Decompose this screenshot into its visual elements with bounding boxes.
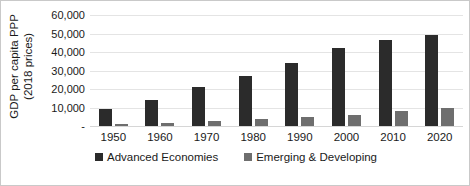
bar-group bbox=[183, 15, 230, 126]
plot-area bbox=[90, 15, 463, 126]
bar bbox=[208, 121, 221, 126]
y-axis-tick-label: 60,000 bbox=[51, 9, 85, 21]
x-axis-tick-label: 1980 bbox=[230, 128, 277, 148]
bar-group bbox=[323, 15, 370, 126]
bar bbox=[99, 109, 112, 126]
bar bbox=[332, 48, 345, 126]
bar-group bbox=[416, 15, 463, 126]
x-axis-tick-label: 1990 bbox=[277, 128, 324, 148]
legend-swatch-icon bbox=[95, 153, 103, 161]
bar-groups bbox=[90, 15, 463, 126]
x-axis-tick-label: 2000 bbox=[323, 128, 370, 148]
bar bbox=[285, 63, 298, 126]
bar bbox=[115, 124, 128, 126]
legend-swatch-icon bbox=[244, 153, 252, 161]
y-axis-tick-label: 20,000 bbox=[51, 83, 85, 95]
bar bbox=[441, 108, 454, 127]
x-axis-tick-label: 1970 bbox=[183, 128, 230, 148]
bar-group bbox=[277, 15, 324, 126]
legend-entry[interactable]: Emerging & Developing bbox=[244, 151, 377, 163]
x-axis-tick-label: 2010 bbox=[370, 128, 417, 148]
legend: Advanced EconomiesEmerging & Developing bbox=[1, 151, 470, 163]
y-axis-tick-label: 50,000 bbox=[51, 28, 85, 40]
bar bbox=[192, 87, 205, 126]
x-axis-tick-label: 1950 bbox=[90, 128, 137, 148]
bar bbox=[161, 123, 174, 126]
bar bbox=[145, 100, 158, 126]
bar-chart: GDP per capita PPP (2018 prices) -10,000… bbox=[0, 0, 470, 186]
bar bbox=[239, 76, 252, 126]
y-axis-title-line-2: (2018 prices) bbox=[21, 14, 35, 119]
y-axis-tick-label: 40,000 bbox=[51, 46, 85, 58]
bar bbox=[301, 117, 314, 126]
bar-group bbox=[370, 15, 417, 126]
legend-label: Emerging & Developing bbox=[256, 151, 377, 163]
bar bbox=[425, 35, 438, 126]
bar-group bbox=[90, 15, 137, 126]
bar bbox=[348, 115, 361, 126]
y-axis-title-line-1: GDP per capita PPP bbox=[7, 14, 21, 119]
bar-group bbox=[230, 15, 277, 126]
y-axis-tick-label: 30,000 bbox=[51, 65, 85, 77]
x-axis-tick-label: 2020 bbox=[416, 128, 463, 148]
axis-baseline bbox=[90, 126, 463, 127]
x-axis-tick-labels: 19501960197019801990200020102020 bbox=[90, 128, 463, 148]
bar-group bbox=[137, 15, 184, 126]
y-axis-tick-label: 10,000 bbox=[51, 102, 85, 114]
bar bbox=[379, 40, 392, 126]
y-axis-tick-label: - bbox=[81, 120, 85, 132]
legend-label: Advanced Economies bbox=[107, 151, 218, 163]
y-axis-title: GDP per capita PPP (2018 prices) bbox=[1, 1, 41, 131]
y-axis-tick-labels: -10,00020,00030,00040,00050,00060,000 bbox=[37, 1, 89, 131]
bar bbox=[395, 111, 408, 126]
x-axis-tick-label: 1960 bbox=[137, 128, 184, 148]
legend-entry[interactable]: Advanced Economies bbox=[95, 151, 218, 163]
bar bbox=[255, 119, 268, 126]
